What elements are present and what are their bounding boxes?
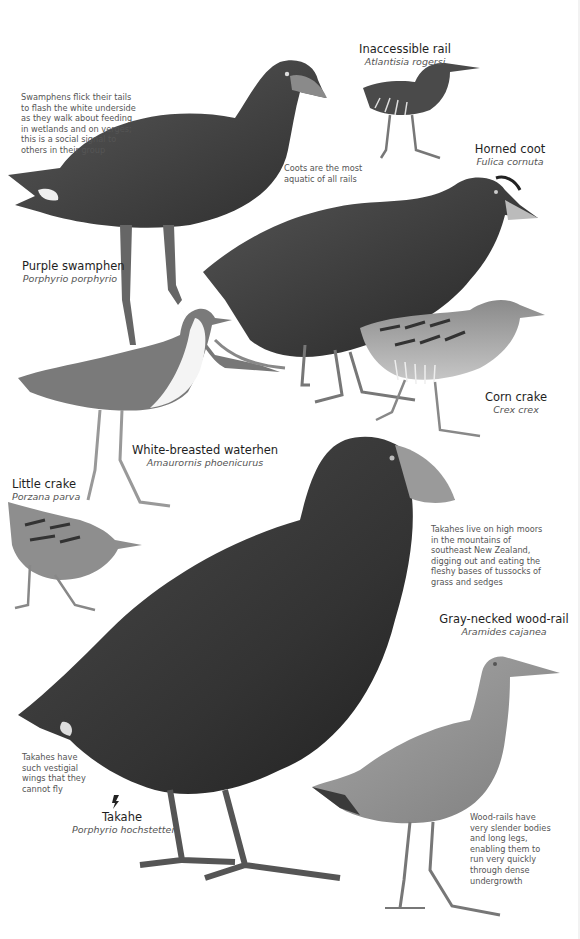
scientific-name: Porzana parva (12, 491, 82, 503)
label-corn-crake: Corn crake Crex crex (476, 390, 556, 416)
scientific-name: Fulica cornuta (470, 156, 550, 168)
common-name: Inaccessible rail (345, 42, 465, 56)
illustration-page: Swamphens flick their tails to flash the… (0, 0, 580, 939)
label-gray-necked-wood-rail: Gray-necked wood-rail Aramides cajanea (436, 612, 572, 638)
label-takahe: Takahe Porphyrio hochstetteri (72, 810, 172, 836)
common-name: Corn crake (476, 390, 556, 404)
scientific-name: Aramides cajanea (436, 626, 572, 638)
common-name: Horned coot (470, 142, 550, 156)
label-white-breasted-waterhen: White-breasted waterhen Amaurornis phoen… (130, 443, 280, 469)
scientific-name: Amaurornis phoenicurus (130, 457, 280, 469)
common-name: Takahe (72, 810, 172, 824)
scientific-name: Porphyrio porphyrio (22, 273, 118, 285)
label-little-crake: Little crake Porzana parva (12, 477, 82, 503)
scientific-name: Atlantisia rogersi (345, 56, 465, 68)
wood-rail-note: Wood-rails have very slender bodies and … (470, 812, 556, 886)
label-purple-swamphen: Purple swamphen Porphyrio porphyrio (22, 259, 118, 285)
takahe-wings-note: Takahes have such vestigial wings that t… (22, 752, 94, 794)
swamphen-note: Swamphens flick their tails to flash the… (21, 92, 141, 156)
endangered-status-icon (111, 795, 121, 809)
takahe-habitat-note: Takahes live on high moors in the mounta… (431, 524, 547, 588)
label-inaccessible-rail: Inaccessible rail Atlantisia rogersi (345, 42, 465, 68)
common-name: Little crake (12, 477, 82, 491)
coot-note: Coots are the most aquatic of all rails (284, 163, 364, 184)
scientific-name: Crex crex (476, 404, 556, 416)
common-name: White-breasted waterhen (130, 443, 280, 457)
inaccessible-rail-illustration (363, 63, 480, 158)
common-name: Gray-necked wood-rail (436, 612, 572, 626)
scientific-name: Porphyrio hochstetteri (72, 824, 172, 836)
label-horned-coot: Horned coot Fulica cornuta (470, 142, 550, 168)
little-crake-illustration (8, 502, 142, 610)
common-name: Purple swamphen (22, 259, 118, 273)
